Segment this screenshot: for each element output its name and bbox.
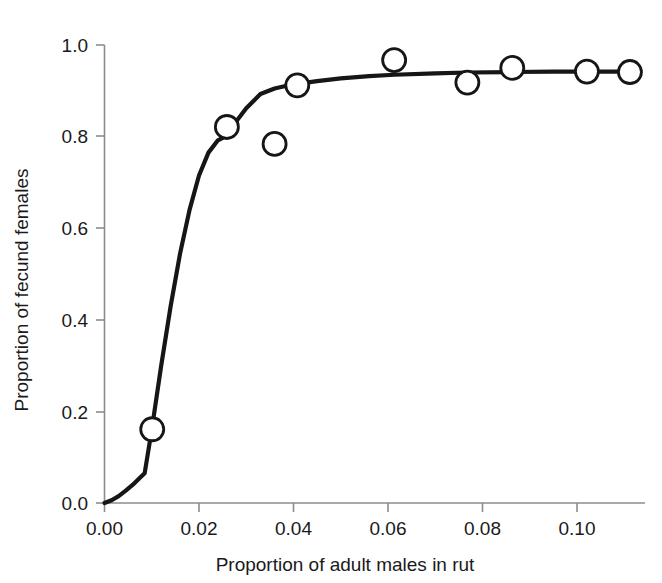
- y-axis-tick-labels: 1.0 0.8 0.6 0.4 0.2 0.0: [62, 35, 89, 514]
- data-point-marker: [618, 61, 641, 84]
- data-point-markers: [141, 49, 642, 441]
- x-axis-title: Proportion of adult males in rut: [216, 554, 475, 575]
- data-point-marker: [575, 60, 598, 83]
- data-point-marker: [456, 71, 479, 94]
- x-axis-tick-labels: 0.00 0.02 0.04 0.06 0.08 0.10: [86, 518, 595, 539]
- x-tick-label: 0.06: [370, 518, 407, 539]
- data-point-marker: [141, 418, 164, 441]
- fitted-curve: [105, 72, 630, 503]
- x-tick-label: 0.04: [275, 518, 312, 539]
- data-point-marker: [383, 49, 406, 72]
- x-tick-label: 0.00: [86, 518, 123, 539]
- data-point-marker: [215, 115, 238, 138]
- x-tick-label: 0.02: [181, 518, 218, 539]
- y-axis-ticks: [96, 45, 105, 503]
- y-tick-label: 0.0: [62, 493, 88, 514]
- y-tick-label: 0.6: [62, 218, 88, 239]
- x-tick-label: 0.08: [464, 518, 501, 539]
- x-axis-ticks: [105, 503, 578, 512]
- y-tick-label: 0.4: [62, 310, 89, 331]
- y-tick-label: 0.2: [62, 402, 88, 423]
- scatter-plot-svg: 1.0 0.8 0.6 0.4 0.2 0.0 0.00 0.02 0.04 0…: [0, 0, 662, 583]
- data-point-marker: [263, 132, 286, 155]
- chart-figure: 1.0 0.8 0.6 0.4 0.2 0.0 0.00 0.02 0.04 0…: [0, 0, 662, 583]
- y-tick-label: 0.8: [62, 126, 88, 147]
- data-point-marker: [286, 74, 309, 97]
- y-axis-title: Proportion of fecund females: [11, 169, 32, 412]
- y-tick-label: 1.0: [62, 35, 88, 56]
- x-tick-label: 0.10: [559, 518, 596, 539]
- data-point-marker: [501, 56, 524, 79]
